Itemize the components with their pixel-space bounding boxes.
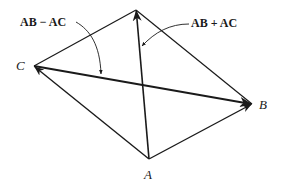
vertex-label-c: C bbox=[16, 59, 25, 72]
difference-label-leader-arrow bbox=[76, 22, 101, 74]
vector-ab-arrow bbox=[149, 105, 251, 160]
difference-label: AB − AC bbox=[20, 16, 66, 28]
vector-parallelogram-diagram: AB − AC AB + AC C B A bbox=[0, 0, 284, 189]
sum-label-leader-arrow bbox=[142, 24, 189, 46]
sum-label: AB + AC bbox=[191, 17, 237, 29]
vertex-label-a: A bbox=[144, 168, 152, 181]
vertex-label-b: B bbox=[259, 98, 267, 111]
vector-difference-arrow bbox=[34, 66, 251, 104]
vector-ac-arrow bbox=[35, 67, 149, 159]
